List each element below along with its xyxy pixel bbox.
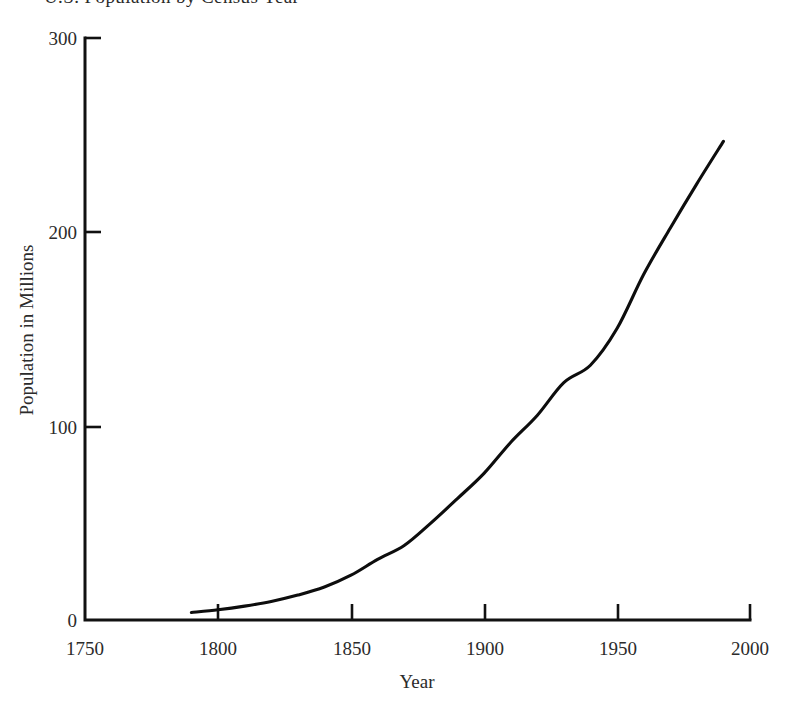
x-tick-label-1750: 1750 [66,638,104,659]
population-series-line [191,141,723,612]
axis-spines [85,38,750,620]
y-axis-ticks [85,38,101,427]
y-tick-label-0: 0 [68,610,78,631]
x-tick-label-1950: 1950 [599,638,637,659]
population-line-chart: 300 200 100 0 1750 1800 1850 1900 1950 2… [0,0,797,708]
x-tick-label-2000: 2000 [731,638,769,659]
y-axis-label: Population in Millions [16,244,37,415]
x-tick-label-1900: 1900 [466,638,504,659]
y-tick-label-200: 200 [49,222,78,243]
x-tick-label-1800: 1800 [199,638,237,659]
chart-page: U.S. Population by Census Year 300 200 1… [0,0,797,708]
y-tick-label-100: 100 [49,417,78,438]
x-axis-label: Year [399,671,435,692]
x-axis-tick-labels: 1750 1800 1850 1900 1950 2000 [66,638,769,659]
x-tick-label-1850: 1850 [333,638,371,659]
y-tick-label-300: 300 [49,28,78,49]
y-axis-tick-labels: 300 200 100 0 [49,28,78,631]
x-axis-ticks [218,604,750,620]
